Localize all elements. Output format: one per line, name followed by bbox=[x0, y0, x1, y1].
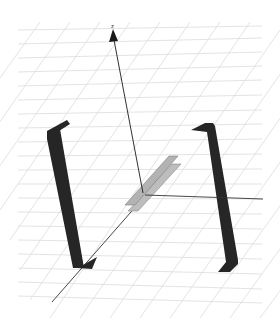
ground-grid bbox=[0, 22, 280, 318]
z-axis-arrow-icon bbox=[109, 29, 118, 42]
z-axis-label: z bbox=[111, 23, 114, 29]
3d-model-viewport[interactable]: z bbox=[0, 0, 280, 318]
feed-strip-upper[interactable] bbox=[125, 156, 178, 205]
